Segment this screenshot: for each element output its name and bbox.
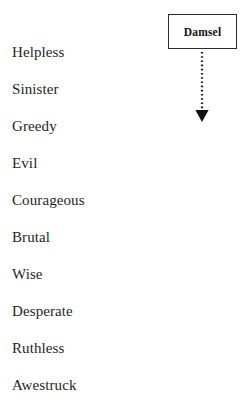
trait-item: Evil <box>12 155 37 171</box>
damsel-node-box: Damsel <box>168 14 237 49</box>
arrowhead-icon <box>195 110 208 122</box>
trait-item: Awestruck <box>12 377 77 393</box>
trait-item: Ruthless <box>12 340 64 356</box>
trait-item: Sinister <box>12 81 59 97</box>
trait-item: Desperate <box>12 303 73 319</box>
figure-canvas: HelplessSinisterGreedyEvilCourageousBrut… <box>0 0 249 408</box>
trait-item: Helpless <box>12 44 64 60</box>
damsel-node-label: Damsel <box>184 26 222 38</box>
dotted-arrow-connector <box>190 50 216 126</box>
trait-item: Brutal <box>12 229 50 245</box>
trait-item: Greedy <box>12 118 57 134</box>
trait-item: Wise <box>12 266 43 282</box>
trait-item: Courageous <box>12 192 85 208</box>
